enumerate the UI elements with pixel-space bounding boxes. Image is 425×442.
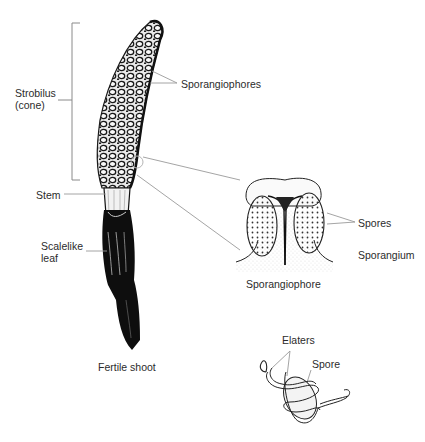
scalelike-leaf-label-line2: leaf [41, 252, 83, 264]
sporangiophore-caption: Sporangiophore [246, 278, 321, 290]
scalelike-leaf-label: Scalelike leaf [41, 240, 83, 264]
sporangium-label: Sporangium [358, 249, 415, 261]
spore-label: Spore [312, 358, 340, 370]
strobilus-label-line2: (cone) [15, 99, 56, 111]
spores-label: Spores [358, 217, 391, 229]
sporangiophore-detail [236, 178, 333, 272]
strobilus-bracket [58, 23, 80, 180]
spore-with-elaters [260, 361, 349, 425]
fertile-shoot-caption: Fertile shoot [98, 361, 156, 373]
diagram-canvas: Strobilus (cone) Sporangiophores Stem Sc… [0, 0, 425, 442]
stem-label: Stem [36, 189, 61, 201]
strobilus-label: Strobilus (cone) [15, 87, 56, 111]
strobilus-cone [97, 21, 162, 188]
sporangiophores-label: Sporangiophores [181, 78, 261, 90]
scalelike-leaf-label-line1: Scalelike [41, 240, 83, 252]
strobilus-label-line1: Strobilus [15, 87, 56, 99]
scalelike-leaf-sheath [102, 210, 140, 350]
elaters-label: Elaters [282, 334, 315, 346]
